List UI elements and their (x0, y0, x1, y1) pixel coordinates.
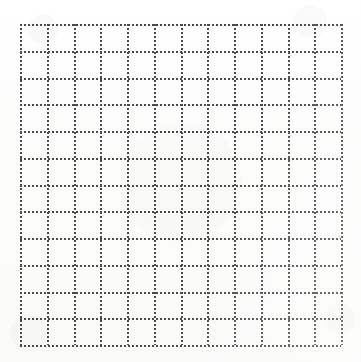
grid-line-vertical-9 (261, 24, 263, 345)
grid-line-vertical-10 (288, 24, 290, 345)
grid-line-vertical-11 (314, 24, 316, 345)
grid-line-vertical-5 (154, 24, 156, 345)
grid-line-vertical-6 (181, 24, 183, 345)
grid-line-vertical-4 (127, 24, 129, 345)
grid-line-horizontal-12 (20, 345, 341, 347)
grid-line-vertical-1 (47, 24, 49, 345)
grid-line-vertical-12 (341, 24, 343, 345)
grid-line-vertical-0 (20, 24, 22, 345)
dotted-grid (20, 24, 341, 345)
scanned-page (0, 0, 361, 362)
grid-line-vertical-7 (207, 24, 209, 345)
grid-line-vertical-8 (234, 24, 236, 345)
grid-line-vertical-3 (100, 24, 102, 345)
grid-line-vertical-2 (74, 24, 76, 345)
